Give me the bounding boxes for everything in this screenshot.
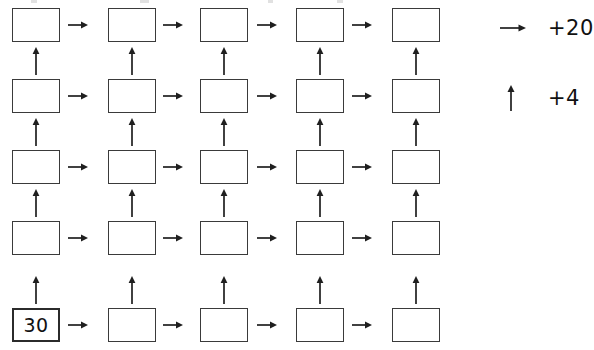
arrow-up-icon-r5c5-r4c5 — [409, 275, 423, 305]
arrow-up-icon-r2c4-r1c4 — [313, 46, 327, 76]
arrow-up-icon-r3c1-r2c1 — [29, 117, 43, 147]
arrow-right-icon-r1c1-c2 — [67, 18, 89, 32]
grid-cell-r1c1[interactable] — [12, 8, 60, 42]
grid-cell-r2c1[interactable] — [12, 79, 60, 113]
grid-cell-r1c4[interactable] — [296, 8, 344, 42]
arrow-up-icon-r2c5-r1c5 — [409, 46, 423, 76]
arrow-right-icon-r4c1-c2 — [67, 231, 89, 245]
arrow-up-icon-r3c5-r2c5 — [409, 117, 423, 147]
arrow-right-icon-r2c3-c4 — [256, 89, 278, 103]
arrow-right-icon-r1c3-c4 — [256, 18, 278, 32]
arrow-up-icon-r4c1-r3c1 — [29, 188, 43, 218]
arrow-up-icon-r2c3-r1c3 — [217, 46, 231, 76]
arrow-up-icon — [500, 84, 522, 112]
grid-cell-r1c3[interactable] — [200, 8, 248, 42]
grid-cell-r5c1-start[interactable]: 30 — [12, 308, 60, 342]
arrow-right-icon-r2c1-c2 — [67, 89, 89, 103]
grid-cell-r3c2[interactable] — [108, 150, 156, 184]
cropped-text-remnant — [268, 0, 273, 3]
grid-cell-r5c4[interactable] — [296, 308, 344, 342]
grid-cell-r2c3[interactable] — [200, 79, 248, 113]
arrow-up-icon-r5c2-r4c2 — [125, 275, 139, 305]
arrow-right-icon-r2c4-c5 — [351, 89, 373, 103]
arrow-right-icon-r5c3-c4 — [256, 318, 278, 332]
arrow-up-icon-r3c3-r2c3 — [217, 117, 231, 147]
arrow-right-icon-r5c2-c3 — [162, 318, 184, 332]
legend-label-arrow-right: +20 — [548, 18, 594, 39]
grid-cell-r4c3[interactable] — [200, 221, 248, 255]
cropped-text-remnant — [140, 0, 149, 3]
arrow-up-icon-r5c3-r4c3 — [217, 275, 231, 305]
arrow-right-icon-r1c2-c3 — [162, 18, 184, 32]
arrow-up-icon-r4c3-r3c3 — [217, 188, 231, 218]
grid-cell-r2c2[interactable] — [108, 79, 156, 113]
arrow-right-icon-r4c4-c5 — [351, 231, 373, 245]
arrow-right-icon-r3c2-c3 — [162, 160, 184, 174]
arrow-right-icon-r1c4-c5 — [351, 18, 373, 32]
arrow-right-icon-r4c2-c3 — [162, 231, 184, 245]
arrow-right-icon-r2c2-c3 — [162, 89, 184, 103]
arrow-right-icon-r5c4-c5 — [351, 318, 373, 332]
arrow-right-icon — [498, 14, 528, 42]
legend-label-arrow-up: +4 — [548, 88, 580, 109]
arrow-right-icon-r3c1-c2 — [67, 160, 89, 174]
arrow-right-icon-r4c3-c4 — [256, 231, 278, 245]
arrow-up-icon-r3c4-r2c4 — [313, 117, 327, 147]
grid-cell-r4c1[interactable] — [12, 221, 60, 255]
grid-cell-r3c1[interactable] — [12, 150, 60, 184]
arrow-up-icon-r5c4-r4c4 — [313, 275, 327, 305]
grid-cell-r2c4[interactable] — [296, 79, 344, 113]
cropped-text-remnant — [337, 0, 343, 3]
legend-item-arrow-right: +20 — [498, 14, 594, 42]
grid-cell-r5c3[interactable] — [200, 308, 248, 342]
grid-cell-r1c5[interactable] — [392, 8, 440, 42]
arrow-up-icon-r4c4-r3c4 — [313, 188, 327, 218]
arrow-up-icon-r3c2-r2c2 — [125, 117, 139, 147]
grid-cell-r5c2[interactable] — [108, 308, 156, 342]
arrow-up-icon-r5c1-r4c1 — [29, 275, 43, 305]
grid-cell-r1c2[interactable] — [108, 8, 156, 42]
arrow-right-icon-r3c4-c5 — [351, 160, 373, 174]
grid-cell-value: 30 — [23, 316, 48, 335]
grid-cell-r4c2[interactable] — [108, 221, 156, 255]
grid-cell-r4c5[interactable] — [392, 221, 440, 255]
grid-cell-r3c5[interactable] — [392, 150, 440, 184]
cropped-text-remnant — [31, 0, 37, 3]
grid-cell-r3c3[interactable] — [200, 150, 248, 184]
grid-cell-r4c4[interactable] — [296, 221, 344, 255]
grid-cell-r5c5[interactable] — [392, 308, 440, 342]
arrow-right-icon-r3c3-c4 — [256, 160, 278, 174]
arrow-right-icon-r5c1-c2 — [67, 318, 89, 332]
arrow-up-icon-r2c1-r1c1 — [29, 46, 43, 76]
grid-cell-r3c4[interactable] — [296, 150, 344, 184]
arrow-up-icon-r2c2-r1c2 — [125, 46, 139, 76]
arrow-up-icon-r4c5-r3c5 — [409, 188, 423, 218]
arrow-up-icon-r4c2-r3c2 — [125, 188, 139, 218]
grid-cell-r2c5[interactable] — [392, 79, 440, 113]
legend-item-arrow-up: +4 — [500, 84, 580, 112]
